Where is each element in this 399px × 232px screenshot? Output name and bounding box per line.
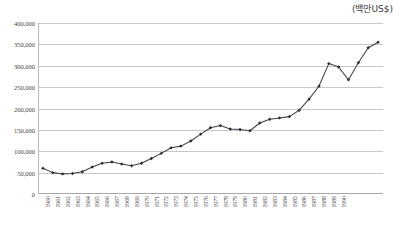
x-axis-tick-label: 1980 — [242, 196, 248, 208]
y-axis-tick-label: 0 — [32, 191, 35, 198]
y-axis-tick-label: 50,000 — [17, 169, 35, 176]
x-axis-tick-label: 1975 — [193, 196, 199, 208]
x-axis-tick-label: 1981 — [252, 196, 258, 208]
data-point-marker — [268, 117, 271, 120]
data-point-marker — [110, 160, 113, 163]
x-axis-tick-label: 1972 — [163, 196, 169, 208]
x-axis-tick-label: 1966 — [104, 196, 110, 208]
data-point-marker — [238, 128, 241, 131]
data-point-marker — [51, 171, 54, 174]
data-point-marker — [229, 127, 232, 130]
data-point-marker — [91, 165, 94, 168]
x-axis-labels: 1960196119621963196419651966196719681969… — [38, 196, 383, 232]
x-axis-tick-label: 1988 — [321, 196, 327, 208]
chart-container: (백만US$) 400,000350,000300,000250,000200,… — [0, 0, 399, 232]
y-axis-tick-label: 300,000 — [14, 62, 35, 69]
x-axis-tick-label: 1963 — [75, 196, 81, 208]
data-point-marker — [81, 170, 84, 173]
data-point-marker — [41, 167, 44, 170]
data-point-marker — [100, 162, 103, 165]
x-axis-tick-label: 1965 — [94, 196, 100, 208]
x-axis-tick-label: 1971 — [154, 196, 160, 208]
series-layer — [38, 23, 383, 194]
x-axis-tick-label: 1977 — [213, 196, 219, 208]
x-axis-tick-label: 1986 — [301, 196, 307, 208]
x-axis-tick-label: 1979 — [232, 196, 238, 208]
x-axis-tick-label: 1978 — [223, 196, 229, 208]
x-axis-tick-label: 1967 — [114, 196, 120, 208]
x-axis-tick-label: 1989 — [331, 196, 337, 208]
x-axis-tick-label: 1970 — [144, 196, 150, 208]
x-axis-tick-label: 1974 — [183, 196, 189, 208]
x-axis-tick-label: 1985 — [292, 196, 298, 208]
data-point-marker — [219, 124, 222, 127]
x-axis-tick-label: 1962 — [65, 196, 71, 208]
y-axis-tick-label: 400,000 — [14, 20, 35, 27]
x-axis-tick-label: 1969 — [134, 196, 140, 208]
data-point-marker — [327, 62, 330, 65]
x-axis-tick-label: 1990 — [341, 196, 347, 208]
y-axis-tick-label: 100,000 — [14, 148, 35, 155]
y-axis-tick-label: 150,000 — [14, 126, 35, 133]
series-line — [43, 42, 378, 174]
y-axis-tick-label: 200,000 — [14, 105, 35, 112]
x-axis-tick-label: 1982 — [262, 196, 268, 208]
x-axis-tick-label: 1983 — [272, 196, 278, 208]
y-axis-tick-label: 350,000 — [14, 41, 35, 48]
data-point-marker — [278, 116, 281, 119]
data-point-marker — [120, 162, 123, 165]
unit-caption: (백만US$) — [352, 2, 393, 15]
x-axis-tick-label: 1968 — [124, 196, 130, 208]
x-axis-tick-label: 1984 — [282, 196, 288, 208]
y-axis-tick-label: 250,000 — [14, 84, 35, 91]
data-point-marker — [71, 172, 74, 175]
data-point-marker — [130, 164, 133, 167]
data-point-marker — [61, 172, 64, 175]
x-axis-tick-label: 1964 — [85, 196, 91, 208]
data-point-marker — [140, 162, 143, 165]
x-axis-tick-label: 1976 — [203, 196, 209, 208]
x-axis-tick-label: 1960 — [45, 196, 51, 208]
x-axis-tick-label: 1973 — [173, 196, 179, 208]
x-axis-tick-label: 1961 — [55, 196, 61, 208]
x-axis-tick-label: 1987 — [311, 196, 317, 208]
